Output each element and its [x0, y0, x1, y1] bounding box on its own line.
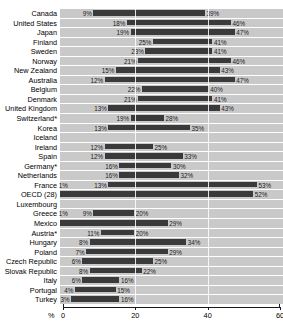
row-start-value-label: 12%: [90, 152, 104, 162]
row-start-value-label: 15%: [102, 66, 116, 76]
chart-row: Canada9%39%: [0, 9, 283, 19]
chart-row: Japan19%47%: [0, 28, 283, 38]
row-start-value-label: 9%: [83, 209, 94, 219]
x-axis-tick: [280, 307, 281, 310]
row-end-value-label: 29%: [168, 219, 182, 229]
range-bar: [138, 96, 212, 102]
row-track: 16%32%: [60, 171, 283, 181]
row-label: Korea: [0, 124, 60, 134]
row-track: 11%20%: [60, 229, 283, 239]
row-label: Canada: [0, 9, 60, 19]
row-start-value-label: 8%: [79, 267, 90, 277]
row-label: Ireland: [0, 143, 60, 153]
row-end-value-label: 25%: [153, 143, 167, 153]
chart-row: United Kingdom13%43%: [0, 104, 283, 114]
row-start-value-label: 12%: [90, 76, 104, 86]
row-end-value-label: 43%: [220, 66, 234, 76]
row-track: 21%41%: [60, 95, 283, 105]
row-track: 6%25%: [60, 257, 283, 267]
row-label: New Zealand: [0, 66, 60, 76]
row-start-value-label: 9%: [83, 9, 94, 19]
range-bar: [82, 258, 153, 264]
range-bar: [119, 172, 178, 178]
row-label: OECD (28): [0, 190, 60, 200]
row-label: Mexico: [0, 219, 60, 229]
row-track: 21%46%: [60, 57, 283, 67]
row-track: [60, 200, 283, 210]
x-axis-tick-label: 40: [204, 311, 212, 320]
row-start-value-label: 12%: [90, 143, 104, 153]
row-label: Hungary: [0, 238, 60, 248]
range-bar: [75, 287, 116, 293]
row-end-value-label: 41%: [212, 38, 226, 48]
row-start-value-label: 23%: [131, 47, 145, 57]
chart-row: Greece1%9%20%: [0, 209, 283, 219]
row-start-value-label: 19%: [117, 28, 131, 38]
range-bar-chart: Canada9%39%United States18%46%Japan19%47…: [0, 0, 283, 329]
row-start-value-label: 7%: [75, 248, 86, 258]
range-bar: [93, 210, 134, 216]
chart-row: Portugal4%15%: [0, 286, 283, 296]
row-label: Japan: [0, 28, 60, 38]
row-end-value-label: 41%: [212, 47, 226, 57]
range-bar: [93, 10, 205, 16]
row-track: 6%16%: [60, 276, 283, 286]
x-axis-line: [63, 307, 280, 308]
range-bar: [101, 230, 134, 236]
x-axis-tick: [208, 307, 209, 310]
chart-row: Iceland: [0, 133, 283, 143]
row-end-value-label: 22%: [142, 267, 156, 277]
row-start-value-label: 22%: [128, 85, 142, 95]
row-start-value-label: 13%: [94, 104, 108, 114]
row-label: Switzerland*: [0, 114, 60, 124]
row-label: Germany*: [0, 162, 60, 172]
chart-title: [0, 0, 283, 8]
row-track: 8%34%: [60, 238, 283, 248]
row-start-value-label: 16%: [105, 162, 119, 172]
row-pre-value-label: 1%: [59, 209, 69, 219]
row-end-value-label: 32%: [179, 171, 193, 181]
row-track: 3%16%: [60, 295, 283, 305]
range-bar: [108, 105, 220, 111]
row-track: [60, 133, 283, 143]
row-label: Greece: [0, 209, 60, 219]
row-label: Czech Republic: [0, 257, 60, 267]
row-track: 9%39%: [60, 9, 283, 19]
row-end-value-label: 40%: [209, 85, 223, 95]
range-bar: [145, 48, 212, 54]
row-track: 1%9%20%: [60, 209, 283, 219]
row-end-value-label: 25%: [153, 257, 167, 267]
x-axis: 0204060: [63, 307, 280, 329]
row-track: 25%41%: [60, 38, 283, 48]
row-label: Poland: [0, 248, 60, 258]
row-track: 18%46%: [60, 19, 283, 29]
chart-row: Hungary8%34%: [0, 238, 283, 248]
row-end-value-label: 53%: [257, 181, 271, 191]
row-start-value-label: 21%: [124, 57, 138, 67]
row-end-value-label: 47%: [235, 76, 249, 86]
row-label: Finland: [0, 38, 60, 48]
chart-row: New Zealand15%43%: [0, 66, 283, 76]
chart-row: Turkey3%16%: [0, 295, 283, 305]
row-label: Turkey: [0, 295, 60, 305]
range-bar: [131, 115, 164, 121]
chart-rows: Canada9%39%United States18%46%Japan19%47…: [0, 9, 283, 305]
range-bar: [71, 296, 119, 302]
row-end-value-label: 20%: [134, 229, 148, 239]
row-track: 16%30%: [60, 162, 283, 172]
row-track: 12%33%: [60, 152, 283, 162]
row-end-value-label: 41%: [212, 95, 226, 105]
chart-row: United States18%46%: [0, 19, 283, 29]
row-end-value-label: 34%: [186, 238, 200, 248]
row-end-value-label: 46%: [231, 57, 245, 67]
row-track: 1%13%53%: [60, 181, 283, 191]
row-end-value-label: 46%: [231, 19, 245, 29]
row-track: 13%35%: [60, 124, 283, 134]
x-axis-tick: [135, 307, 136, 310]
x-axis-tick-label: 0: [61, 311, 65, 320]
chart-row: Finland25%41%: [0, 38, 283, 48]
row-start-value-label: 6%: [72, 257, 83, 267]
range-bar: [108, 182, 257, 188]
chart-row: Luxembourg: [0, 200, 283, 210]
row-track: 22%40%: [60, 85, 283, 95]
